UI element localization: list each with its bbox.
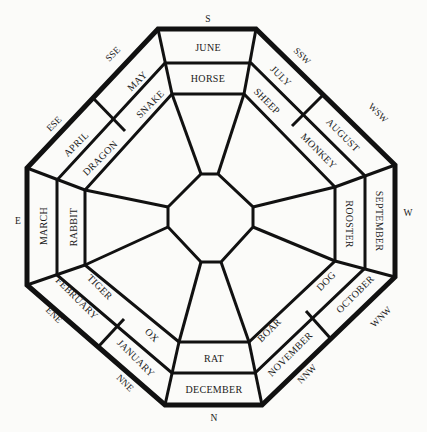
direction-wnw: WNW: [369, 305, 394, 330]
animal-horse: HORSE: [191, 73, 225, 84]
animal-rabbit: RABBIT: [68, 208, 79, 246]
month-march: MARCH: [38, 207, 49, 245]
direction-n: N: [211, 413, 218, 423]
month-september: SEPTEMBER: [374, 191, 385, 252]
animal-rooster: ROOSTER: [344, 200, 355, 248]
zodiac-octagon-diagram: S SSW WSW W WNW NNW N NNE ENE E ESE SSE …: [0, 0, 427, 432]
month-june: JUNE: [195, 42, 221, 53]
outer-octagon: [27, 29, 395, 405]
month-december: DECEMBER: [186, 384, 243, 395]
direction-e: E: [15, 216, 21, 226]
direction-sse: SSE: [104, 45, 123, 64]
direction-wsw: WSW: [366, 101, 390, 125]
direction-w: W: [404, 208, 413, 218]
direction-ssw: SSW: [292, 46, 313, 67]
animal-rat: RAT: [204, 353, 224, 364]
direction-s: S: [205, 14, 210, 24]
